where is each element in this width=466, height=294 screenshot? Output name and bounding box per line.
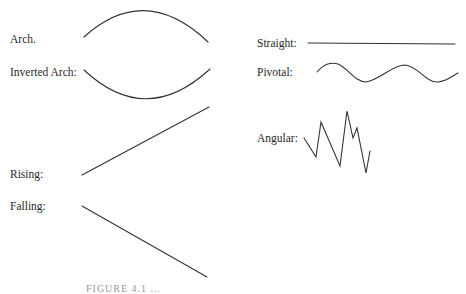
figure-caption: FIGURE 4.1 ... — [86, 283, 161, 294]
falling-line — [82, 206, 207, 277]
pivotal-wave — [317, 63, 458, 82]
straight-line — [308, 43, 455, 44]
angular-zigzag — [304, 111, 370, 173]
rising-line — [82, 107, 209, 175]
arch-curve — [84, 11, 208, 42]
inverted-arch-curve — [84, 69, 210, 99]
